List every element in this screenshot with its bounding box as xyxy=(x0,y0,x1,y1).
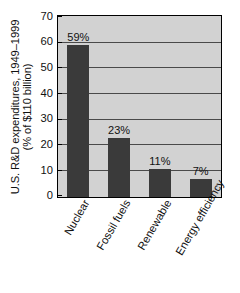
bars-layer: 59%23%11%7% xyxy=(58,16,221,197)
y-axis-tick-label: 20 xyxy=(30,139,53,150)
bar-chart-figure: U.S. R&D expenditures, 1949–1999 (% of $… xyxy=(0,0,240,293)
x-axis-category-label: Nuclear xyxy=(51,198,92,257)
y-axis-tick-label: 10 xyxy=(30,165,53,176)
x-axis-category-label: Energy efficiency xyxy=(174,198,215,257)
y-axis-tick-label: 50 xyxy=(30,62,53,73)
y-axis-tick-label: 60 xyxy=(30,37,53,48)
bar xyxy=(108,138,130,197)
bar-value-label: 59% xyxy=(67,32,89,43)
y-axis-tick-label: 0 xyxy=(30,191,53,202)
x-axis-category-labels: NuclearFossil fuelsRenewableEnergy effic… xyxy=(57,198,222,293)
bar xyxy=(149,169,171,197)
x-axis-category-label: Renewable xyxy=(133,198,174,257)
bar-group: 59% xyxy=(67,16,89,197)
bar-group: 11% xyxy=(149,16,171,197)
x-axis-category-label: Fossil fuels xyxy=(92,198,133,257)
y-axis-tick-label: 40 xyxy=(30,88,53,99)
bar-value-label: 7% xyxy=(193,166,209,177)
y-axis-tick-label: 70 xyxy=(30,11,53,22)
bar-group: 7% xyxy=(190,16,212,197)
bar xyxy=(67,45,89,197)
bar-group: 23% xyxy=(108,16,130,197)
bar-value-label: 23% xyxy=(108,125,130,136)
plot-area: 59%23%11%7% xyxy=(57,15,222,198)
y-axis-tick-labels: 010203040506070 xyxy=(30,0,53,293)
bar-value-label: 11% xyxy=(149,156,170,167)
y-axis-tick-label: 30 xyxy=(30,114,53,125)
y-axis-title-line-1: U.S. R&D expenditures, 1949–1999 xyxy=(9,20,21,195)
